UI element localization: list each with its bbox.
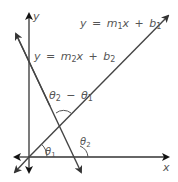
line-1 xyxy=(29,16,168,157)
line-1-extension xyxy=(15,157,29,172)
x-axis-label: x xyxy=(162,161,170,174)
y-axis-label: y xyxy=(32,10,40,23)
line-2-upper xyxy=(16,34,50,106)
difference-arc xyxy=(56,110,71,113)
line-2-equation: y = m2x + b2 xyxy=(33,50,115,64)
line-1-equation: y = m1x + b1 xyxy=(79,17,161,31)
angle-between-lines-diagram: y x y = m1x + b1 y = m2x + b2 θ2 − θ1 θ1… xyxy=(0,0,178,182)
difference-angle-label: θ2 − θ1 xyxy=(49,89,93,104)
